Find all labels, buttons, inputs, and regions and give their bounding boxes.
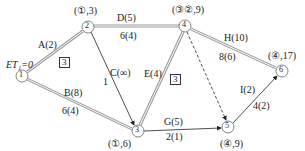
node-6-annotation: (④,17) bbox=[268, 51, 296, 61]
node-3: 3 bbox=[135, 126, 139, 134]
edge-c-value: 1 bbox=[103, 77, 108, 87]
edge-i-label: I(2) bbox=[240, 85, 255, 95]
node-5: 5 bbox=[225, 122, 229, 130]
edge-e-label: E(4) bbox=[144, 69, 162, 79]
node-6: 6 bbox=[279, 66, 283, 74]
edge-b-label: B(8) bbox=[64, 88, 82, 98]
node-1: 1 bbox=[19, 71, 23, 79]
edge-g-label: G(5) bbox=[164, 117, 183, 127]
node-3-annotation: (①,6) bbox=[108, 139, 131, 149]
node-4: 4 bbox=[182, 21, 186, 29]
node-2: 2 bbox=[85, 22, 89, 30]
edge-g-value: 2(1) bbox=[166, 132, 183, 142]
node-2-annotation: (①,3) bbox=[74, 6, 97, 16]
edge-d-label: D(5) bbox=[117, 13, 136, 23]
edge-h-label: H(10) bbox=[224, 33, 248, 43]
edge-h-value: 8(6) bbox=[219, 52, 236, 62]
node-5-annotation: (④,9) bbox=[220, 139, 243, 149]
edge-d-value: 6(4) bbox=[120, 31, 137, 41]
box-a: 3 bbox=[59, 57, 70, 68]
edge-b-value: 6(4) bbox=[62, 106, 79, 116]
start-label: ET₁=0 bbox=[6, 60, 33, 70]
node-4-annotation: (③②,9) bbox=[172, 5, 204, 15]
edge-i-value: 4(2) bbox=[253, 101, 270, 111]
edge-c-label: C(∞) bbox=[110, 68, 130, 78]
edge-a-label: A(2) bbox=[38, 40, 57, 50]
box-e: 3 bbox=[170, 74, 181, 85]
